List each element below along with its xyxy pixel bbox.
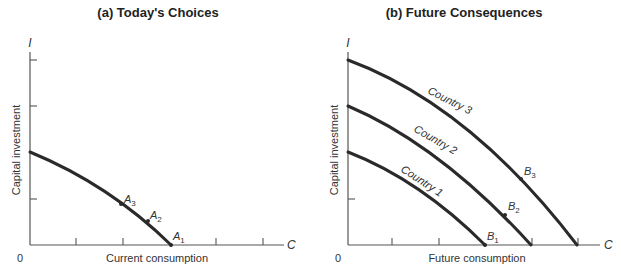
panel-b: (b) Future Consequences I C 0 Future con… (328, 5, 613, 264)
panel-a: (a) Today's Choices I C 0 Current consum… (10, 5, 296, 264)
origin-label: 0 (17, 252, 23, 264)
x-axis-symbol: C (604, 238, 613, 252)
country-2-label: Country 2 (412, 122, 459, 156)
point-b2-label: B2 (508, 200, 520, 215)
point-b1-label: B1 (487, 230, 499, 245)
point-a3 (119, 202, 123, 206)
x-axis-symbol: C (287, 238, 296, 252)
country-1-curve (348, 152, 485, 245)
panel-b-title: (b) Future Consequences (386, 5, 543, 20)
country-3-label: Country 3 (426, 84, 475, 117)
y-axis-symbol: I (28, 36, 32, 50)
origin-label: 0 (335, 252, 341, 264)
panel-a-title: (a) Today's Choices (97, 5, 218, 20)
y-axis-label: Capital investment (10, 105, 22, 196)
country-3-curve (348, 60, 577, 245)
point-a1 (169, 243, 173, 247)
y-axis-label: Capital investment (328, 105, 340, 196)
point-b3 (519, 177, 523, 181)
point-b1 (483, 243, 487, 247)
ppf-curve (30, 152, 171, 245)
point-b3-label: B3 (524, 165, 536, 180)
x-axis-label: Current consumption (106, 252, 208, 264)
y-axis-symbol: I (346, 36, 350, 50)
point-a1-label: A1 (172, 230, 185, 245)
x-axis-label: Future consumption (428, 252, 525, 264)
point-a2-label: A2 (149, 209, 162, 224)
country-2-curve (348, 106, 531, 245)
figure: (a) Today's Choices I C 0 Current consum… (0, 0, 621, 272)
point-b2 (503, 213, 507, 217)
